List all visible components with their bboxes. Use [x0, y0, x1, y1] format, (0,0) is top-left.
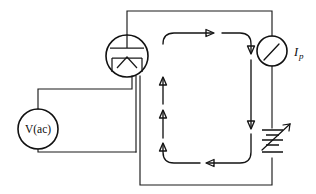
current-flow-loop	[160, 30, 255, 167]
circuit-diagram-figure: V(ac) I p	[0, 0, 316, 194]
variable-battery	[262, 124, 290, 152]
tube-cathode-filament	[117, 57, 137, 68]
plate-circuit-wiring	[127, 11, 272, 185]
ammeter-label-sub: p	[298, 51, 304, 61]
vac-bottom-wire	[38, 149, 136, 152]
vac-top-wire	[38, 76, 132, 109]
tube-cathode-bracket	[112, 58, 142, 66]
plate-current-ammeter: I p	[257, 36, 304, 66]
vacuum-tube-diode	[106, 35, 148, 77]
ac-source-label: V(ac)	[25, 123, 51, 136]
ac-voltage-source: V(ac)	[18, 109, 58, 149]
filament-circuit-wiring	[38, 76, 136, 152]
flow-bottom-right-segment	[207, 134, 251, 163]
flow-top-right-segment	[222, 33, 251, 53]
anode-to-top-wire	[127, 11, 272, 36]
battery-to-bottom-wire	[140, 76, 272, 185]
ammeter-needle	[264, 44, 279, 60]
flow-bottom-left-segment	[163, 144, 200, 163]
battery-variable-arrow	[262, 124, 290, 150]
circuit-schematic-svg: V(ac) I p	[0, 0, 316, 194]
